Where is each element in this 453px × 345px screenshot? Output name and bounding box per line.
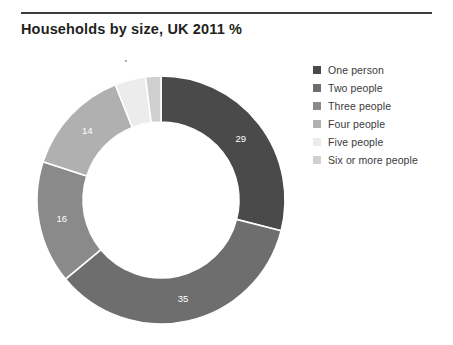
slice-value-label: 14 xyxy=(82,125,93,136)
legend-item-label: Six or more people xyxy=(328,154,418,166)
chart-title: Households by size, UK 2011 % xyxy=(21,21,242,37)
legend-swatch-icon xyxy=(313,156,321,164)
legend-swatch-icon xyxy=(313,138,321,146)
legend-item-label: Four people xyxy=(328,118,385,130)
legend-item[interactable]: Three people xyxy=(313,97,448,115)
legend-item-label: Five people xyxy=(328,136,383,148)
slice-value-label: 35 xyxy=(178,293,189,304)
legend-item-label: Two people xyxy=(328,82,383,94)
legend-item[interactable]: Two people xyxy=(313,79,448,97)
chart-figure: Households by size, UK 2011 % 2935161442… xyxy=(0,0,453,345)
legend-swatch-icon xyxy=(313,66,321,74)
slice-value-label: 4 xyxy=(122,60,128,64)
donut-chart: 2935161442 xyxy=(28,60,294,338)
legend-swatch-icon xyxy=(313,102,321,110)
legend-item-label: Three people xyxy=(328,100,391,112)
legend-item[interactable]: Five people xyxy=(313,133,448,151)
legend-item-label: One person xyxy=(328,64,384,76)
donut-chart-svg: 2935161442 xyxy=(28,60,294,338)
donut-slices xyxy=(37,76,285,324)
legend-item[interactable]: Six or more people xyxy=(313,151,448,169)
legend-swatch-icon xyxy=(313,120,321,128)
legend-item[interactable]: Four people xyxy=(313,115,448,133)
legend-item[interactable]: One person xyxy=(313,61,448,79)
donut-slice[interactable] xyxy=(161,76,285,231)
title-divider xyxy=(21,12,432,14)
slice-value-label: 29 xyxy=(236,133,247,144)
donut-slice[interactable] xyxy=(65,219,281,324)
legend-swatch-icon xyxy=(313,84,321,92)
chart-legend: One personTwo peopleThree peopleFour peo… xyxy=(313,61,448,169)
slice-value-label: 16 xyxy=(56,213,67,224)
